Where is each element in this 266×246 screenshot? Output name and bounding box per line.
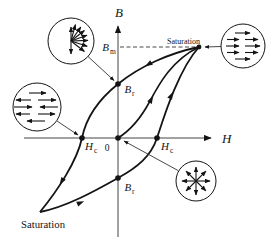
- connector-to-br-arrow: [88, 57, 114, 81]
- bm-label-sub: m: [110, 47, 116, 56]
- point-hc-left: [79, 135, 85, 141]
- hysteresis-diagram: B H 0 B m B r B r H c H c Saturation Sat…: [0, 0, 266, 246]
- direction-arrow-icon: [167, 92, 173, 100]
- hc-right-label: H: [160, 140, 170, 152]
- point-br-top: [115, 81, 121, 87]
- connector-to-hc-left-arrow: [57, 121, 78, 135]
- point-origin: [115, 135, 121, 141]
- br-top-label-sub: r: [132, 89, 135, 98]
- hysteresis-svg: B H 0 B m B r B r H c H c Saturation Sat…: [0, 0, 266, 246]
- point-hc-right: [154, 135, 160, 141]
- domains-aligned-right-icon: [221, 24, 265, 68]
- domains-mixed-left-right-icon: [13, 83, 61, 131]
- direction-arrow-icon: [145, 60, 153, 66]
- br-bottom-label-sub: r: [132, 187, 135, 196]
- b-axis-label: B: [115, 5, 123, 20]
- loop-ascending-branch: [40, 47, 199, 212]
- hc-right-label-sub: c: [170, 146, 174, 155]
- bm-label: B: [102, 41, 109, 53]
- br-top-label: B: [125, 83, 132, 95]
- hc-left-label: H: [84, 140, 94, 152]
- saturation-top-label: Saturation: [167, 37, 200, 46]
- br-bottom-label: B: [125, 181, 132, 193]
- hc-left-label-sub: c: [94, 146, 98, 155]
- loop-descending-branch: [40, 47, 199, 212]
- domains-radial-arrows-icon: [176, 161, 216, 201]
- h-axis-label: H: [221, 131, 232, 146]
- point-br-bottom: [115, 175, 121, 181]
- domains-fan-arrows-icon: [48, 18, 94, 64]
- origin-label: 0: [105, 143, 110, 153]
- direction-arrow-icon: [76, 201, 84, 206]
- connector-to-saturation-arrow: [205, 47, 222, 48]
- saturation-bottom-label: Saturation: [21, 220, 65, 230]
